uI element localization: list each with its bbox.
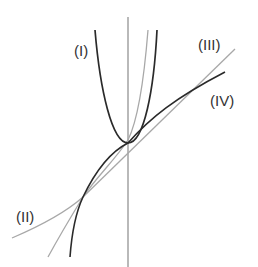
- label-III: (III): [198, 36, 221, 53]
- label-IV: (IV): [210, 92, 234, 109]
- curve-III: [83, 49, 235, 197]
- label-II: (II): [16, 208, 34, 225]
- curve-I: [95, 30, 157, 143]
- label-I: (I): [74, 42, 88, 59]
- curve-IV: [70, 72, 225, 257]
